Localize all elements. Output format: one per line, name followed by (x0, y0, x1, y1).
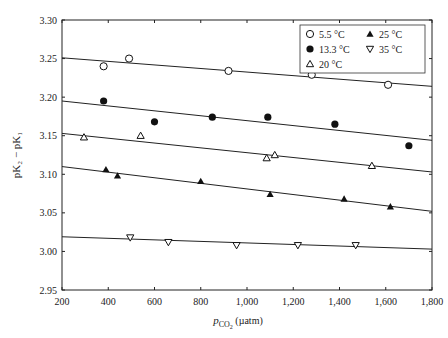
circle-filled-marker (331, 121, 338, 128)
x-tick-label: 1,600 (375, 296, 398, 307)
x-tick-label: 1,000 (236, 296, 259, 307)
circle-filled-marker (306, 45, 313, 52)
legend-label: 5.5 °C (319, 29, 345, 40)
fit-line (62, 237, 432, 249)
y-tick-label: 3.30 (40, 15, 58, 26)
y-axis-label: pK₂ − pK₁ (10, 132, 22, 178)
circle-filled-marker (405, 142, 412, 149)
triangle-down-open-marker (352, 243, 359, 249)
x-tick-label: 1,800 (421, 296, 444, 307)
fit-line (62, 101, 432, 140)
legend-label: 25 °C (379, 29, 402, 40)
x-tick-label: 1,200 (282, 296, 305, 307)
data-points (80, 55, 412, 249)
legend-label: 35 °C (379, 44, 402, 55)
circle-open-marker (384, 81, 391, 88)
circle-open-marker (100, 63, 107, 70)
triangle-up-open-marker (80, 134, 87, 140)
triangle-down-open-marker (127, 235, 134, 241)
triangle-up-open-marker (137, 132, 144, 138)
triangle-down-open-marker (165, 239, 172, 245)
fit-line (62, 133, 432, 172)
triangle-down-open-marker (233, 243, 240, 249)
triangle-down-open-marker (294, 243, 301, 249)
y-tick-label: 3.25 (40, 53, 58, 64)
x-tick-label: 400 (101, 296, 116, 307)
circle-filled-marker (264, 114, 271, 121)
triangle-up-filled-marker (197, 178, 204, 184)
y-tick-label: 3.00 (40, 246, 58, 257)
y-tick-label: 3.15 (40, 130, 58, 141)
y-tick-label: 3.10 (40, 169, 58, 180)
y-tick-label: 3.20 (40, 92, 58, 103)
circle-open-marker (306, 30, 313, 37)
circle-open-marker (225, 67, 232, 74)
x-tick-label: 800 (193, 296, 208, 307)
legend-label: 20 °C (319, 59, 342, 70)
triangle-up-filled-marker (341, 195, 348, 201)
legend: 5.5 °C13.3 °C20 °C25 °C35 °C (300, 25, 425, 73)
y-tick-label: 2.95 (40, 285, 58, 296)
x-tick-label: 600 (147, 296, 162, 307)
circle-filled-marker (100, 97, 107, 104)
circle-filled-marker (209, 114, 216, 121)
triangle-up-open-marker (271, 151, 278, 157)
chart: 2.953.003.053.103.153.203.253.30 2004006… (0, 0, 448, 338)
fit-lines (62, 58, 432, 249)
triangle-up-filled-marker (102, 166, 109, 172)
x-tick-label: 1,400 (328, 296, 351, 307)
legend-label: 13.3 °C (319, 44, 350, 55)
x-tick-label: 200 (55, 296, 70, 307)
circle-filled-marker (151, 118, 158, 125)
x-axis-label: pCO2 (µatm) (212, 314, 263, 330)
circle-open-marker (125, 55, 132, 62)
y-tick-label: 3.05 (40, 207, 58, 218)
